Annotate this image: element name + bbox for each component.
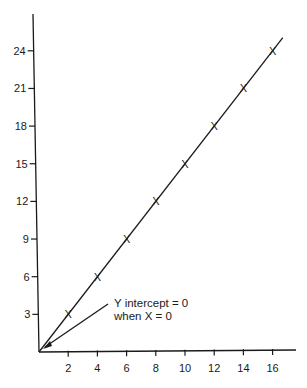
y-tick-label: 12 [16,195,28,207]
x-tick-label: 2 [65,362,71,374]
x-marker-icon: X [181,158,189,170]
x-marker-icon: X [123,233,131,245]
y-tick-label: 18 [15,120,27,132]
x-tick-label: 6 [124,362,130,374]
y-tick-label: 9 [23,233,29,245]
x-marker-icon: X [94,271,102,283]
y-tick-label: 15 [15,158,27,170]
x-ticks: 246810121416 [65,349,279,374]
x-tick-label: 10 [179,362,191,374]
x-tick-label: 12 [208,362,220,374]
x-tick-label: 8 [153,362,159,374]
x-marker-icon: X [211,120,219,132]
x-tick-label: 16 [266,362,278,374]
line-chart: 246810121416 3691215182124 XXXXXXXX Y in… [0,0,307,388]
annotation-arrow-line [45,304,108,347]
x-marker-icon: X [240,82,248,94]
y-tick-label: 6 [24,271,30,283]
annotation-line-1: Y intercept = 0 [114,297,188,309]
y-tick-label: 3 [24,308,30,320]
annotation-line-2: when X = 0 [113,310,172,322]
x-marker-icon: X [152,195,160,207]
x-marker-icon: X [65,308,73,320]
x-marker-icon: X [269,45,277,57]
y-tick-label: 21 [14,82,26,94]
x-axis [39,350,296,352]
y-axis [33,14,39,352]
y-tick-label: 24 [13,45,25,57]
x-tick-label: 4 [94,362,100,374]
x-tick-label: 14 [237,362,249,374]
